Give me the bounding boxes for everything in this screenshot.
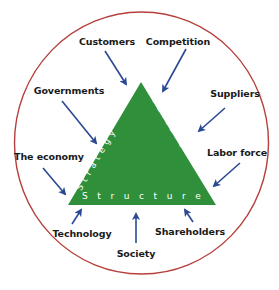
labor-force-arrow-icon [214,163,240,186]
competition-label: Competition [146,36,210,47]
the-economy-label: The economy [14,151,84,162]
technology-arrow-icon [72,210,81,224]
competition-arrow-icon [163,49,186,91]
shareholders-arrow-icon [185,210,193,222]
governments-arrow-icon [62,101,96,143]
labor-force-label: Labor force [207,147,267,158]
governments-label: Governments [34,85,105,96]
technology-label: Technology [52,228,111,239]
structure-base-label: Structure [82,191,210,201]
shareholders-label: Shareholders [155,226,225,237]
organizational-forces-diagram: Strategy Culture Structure Customers Com… [0,0,279,290]
organization-triangle [68,82,216,205]
diagram-canvas: Strategy Culture Structure [0,0,279,290]
suppliers-arrow-icon [199,108,225,131]
customers-label: Customers [79,36,135,47]
customers-arrow-icon [105,51,126,84]
society-label: Society [117,248,156,259]
the-economy-arrow-icon [43,168,65,194]
suppliers-label: Suppliers [210,88,260,99]
